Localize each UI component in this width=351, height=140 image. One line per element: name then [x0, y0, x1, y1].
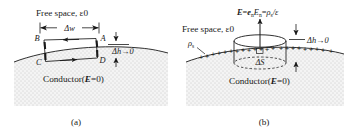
panel-caption-a: (a)	[71, 117, 81, 127]
panel-caption-b: (b)	[259, 117, 270, 127]
corner-label-B: B	[35, 34, 40, 43]
corner-label-D: D	[99, 56, 106, 65]
svg-text:+: +	[309, 46, 313, 53]
svg-text:+: +	[223, 49, 227, 56]
conductor-label-a: Conductor(E=0)	[43, 74, 104, 84]
rho-s-label: ρs	[187, 39, 194, 49]
free-space-label-a: Free space, ε0	[36, 8, 88, 18]
svg-text:+: +	[297, 45, 301, 52]
delta-w-dimension-a: Δw	[40, 23, 99, 34]
conductor-label-b: Conductor(E=0)	[229, 76, 290, 86]
svg-text:+: +	[205, 53, 209, 60]
corner-label-A: A	[100, 34, 107, 43]
delta-h-label-a: Δh→0	[111, 47, 134, 56]
rho-s-annotation: ρs	[187, 39, 205, 54]
physics-figure-svg: Free space, ε0 Δw	[0, 0, 351, 140]
svg-text:+: +	[321, 47, 325, 54]
svg-text:+: +	[241, 47, 245, 54]
svg-text:+: +	[279, 45, 283, 52]
svg-text:+: +	[247, 47, 251, 54]
svg-text:+: +	[329, 48, 333, 55]
svg-text:+: +	[211, 51, 215, 58]
svg-text:+: +	[315, 46, 319, 53]
svg-text:+: +	[217, 50, 221, 57]
delta-h-label-b: Δh→0	[306, 36, 329, 45]
svg-text:+: +	[199, 54, 203, 61]
panel-a: Free space, ε0 Δw	[14, 8, 168, 127]
free-space-label-b: Free space, ε0	[182, 24, 234, 34]
delta-w-label: Δw	[63, 24, 75, 33]
svg-text:+: +	[229, 48, 233, 55]
svg-text:+: +	[235, 48, 239, 55]
delta-S-label: ΔS	[254, 58, 265, 67]
panel-b: E=enEn=ρs/ε Free space, ε0 ρs + + + +	[182, 8, 344, 127]
figure-root: Free space, ε0 Δw	[0, 0, 351, 140]
svg-text:+: +	[291, 45, 295, 52]
corner-label-C: C	[36, 58, 42, 67]
field-formula-label: E=enEn=ρs/ε	[236, 8, 279, 18]
svg-text:+: +	[303, 46, 307, 53]
